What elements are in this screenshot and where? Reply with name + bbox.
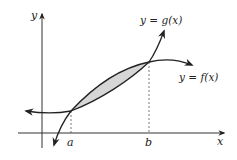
- curve-g-label: y = g(x): [139, 14, 182, 26]
- x-axis-label: x: [217, 135, 224, 148]
- y-axis-label: y: [30, 9, 38, 22]
- point-b-label: b: [145, 136, 152, 149]
- shaded-region: [71, 62, 149, 111]
- point-a-label: a: [67, 136, 74, 149]
- area-between-curves-diagram: y x y = g(x) y = f(x) a b: [0, 0, 237, 160]
- curve-f-label: y = f(x): [178, 71, 218, 83]
